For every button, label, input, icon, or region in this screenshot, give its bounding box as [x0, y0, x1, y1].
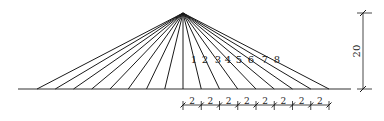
cable-line: [183, 13, 238, 89]
spacing-label: 2: [262, 96, 268, 106]
cable-line: [74, 13, 184, 89]
cable-line: [165, 13, 183, 89]
cable-line: [128, 13, 183, 89]
fan-cable-diagram: 12345678 20 22222222: [0, 0, 384, 121]
height-label: 20: [351, 45, 362, 58]
cable-label: 8: [274, 54, 280, 65]
cable-labels: 12345678: [191, 54, 280, 65]
cable-label: 2: [202, 54, 208, 65]
cable-line: [183, 13, 311, 89]
spacing-label: 2: [281, 96, 287, 106]
cable-line: [183, 13, 329, 89]
cable-fan: [37, 13, 329, 89]
cable-line: [183, 13, 293, 89]
cable-label: 7: [262, 54, 268, 65]
cable-label: 1: [191, 54, 197, 65]
spacing-label: 2: [299, 96, 305, 106]
spacing-label: 2: [244, 96, 250, 106]
cable-label: 4: [225, 54, 231, 65]
spacing-label: 2: [208, 96, 214, 106]
cable-line: [37, 13, 183, 89]
cable-label: 3: [215, 54, 221, 65]
cable-line: [183, 13, 256, 89]
cable-label: 5: [236, 54, 242, 65]
cable-line: [183, 13, 274, 89]
spacing-dimension-chain: 22222222: [181, 96, 332, 111]
height-dimension: 20: [351, 10, 372, 92]
cable-line: [92, 13, 183, 89]
cable-line: [55, 13, 183, 89]
cable-line: [183, 13, 201, 89]
spacing-label: 2: [189, 96, 195, 106]
spacing-label: 2: [226, 96, 232, 106]
cable-label: 6: [248, 54, 254, 65]
cable-line: [110, 13, 183, 89]
spacing-label: 2: [317, 96, 323, 106]
